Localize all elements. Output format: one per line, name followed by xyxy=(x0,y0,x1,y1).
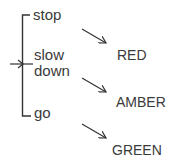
input-label-slow: slow xyxy=(34,47,64,62)
input-arrow-icon xyxy=(10,60,33,68)
bracket xyxy=(23,15,32,116)
arrow-icon-red xyxy=(82,29,106,43)
output-label-amber: AMBER xyxy=(116,95,166,109)
arrow-icon-amber xyxy=(82,78,106,92)
arrow-icon-green xyxy=(82,124,106,138)
output-label-red: RED xyxy=(117,48,147,62)
input-label-stop: stop xyxy=(33,7,61,22)
output-label-green: GREEN xyxy=(112,143,162,157)
input-label-go: go xyxy=(34,105,51,120)
input-label-down: down xyxy=(34,63,70,78)
